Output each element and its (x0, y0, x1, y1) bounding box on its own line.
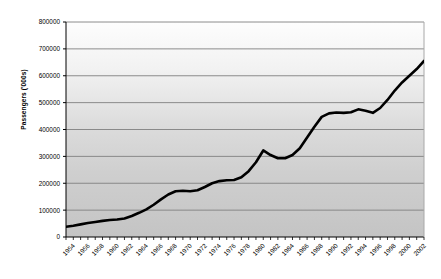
line-chart: Passengers ('000s) 010000020000030000040… (0, 0, 441, 279)
x-axis-tick-labels: 1954195619581960196219641966196819701972… (0, 0, 441, 279)
